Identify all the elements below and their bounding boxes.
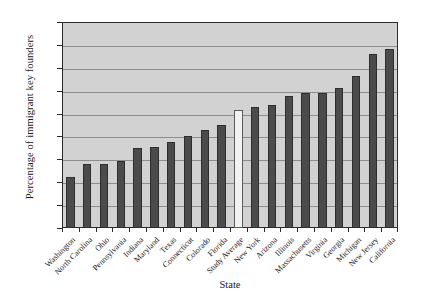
x-tick-mark bbox=[163, 228, 164, 232]
bar bbox=[100, 164, 108, 228]
x-tick-mark bbox=[381, 228, 382, 232]
bar bbox=[217, 125, 225, 228]
x-tick-mark bbox=[264, 228, 265, 232]
x-tick-mark bbox=[280, 228, 281, 232]
bar bbox=[66, 177, 74, 228]
x-tick-mark bbox=[213, 228, 214, 232]
bar bbox=[133, 148, 141, 228]
bar bbox=[318, 93, 326, 229]
bar bbox=[184, 136, 192, 228]
x-tick-mark bbox=[79, 228, 80, 232]
bar bbox=[167, 142, 175, 228]
x-tick-mark bbox=[180, 228, 181, 232]
x-tick-mark bbox=[297, 228, 298, 232]
bar bbox=[301, 93, 309, 229]
x-tick-mark bbox=[62, 228, 63, 232]
bar bbox=[285, 96, 293, 228]
x-tick-mark bbox=[230, 228, 231, 232]
bar bbox=[83, 164, 91, 228]
bar bbox=[385, 49, 393, 228]
bar bbox=[335, 88, 343, 228]
bar bbox=[268, 105, 276, 228]
x-tick-mark bbox=[397, 228, 398, 232]
x-tick-mark bbox=[331, 228, 332, 232]
bar-series bbox=[62, 22, 398, 228]
x-axis-title: State bbox=[62, 279, 398, 290]
bar bbox=[369, 54, 377, 228]
x-tick-mark bbox=[112, 228, 113, 232]
x-tick-mark bbox=[348, 228, 349, 232]
bar bbox=[251, 107, 259, 228]
x-tick-mark bbox=[314, 228, 315, 232]
x-axis-ticks bbox=[62, 228, 398, 233]
bar bbox=[150, 147, 158, 228]
x-tick-mark bbox=[129, 228, 130, 232]
bar bbox=[234, 110, 242, 228]
chart-figure: Percentage of immigrant key founders 051… bbox=[0, 0, 421, 303]
x-tick-mark bbox=[196, 228, 197, 232]
bar bbox=[117, 161, 125, 228]
x-tick-mark bbox=[146, 228, 147, 232]
bar bbox=[201, 130, 209, 228]
bar bbox=[352, 76, 360, 228]
x-tick-mark bbox=[96, 228, 97, 232]
x-tick-mark bbox=[247, 228, 248, 232]
x-tick-mark bbox=[364, 228, 365, 232]
